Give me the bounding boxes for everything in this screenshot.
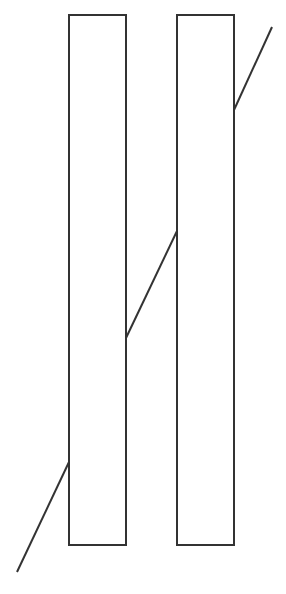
middle-segment bbox=[126, 231, 177, 338]
poggendorff-diagram bbox=[0, 0, 286, 594]
right-bar bbox=[177, 15, 234, 545]
upper-right-segment bbox=[234, 27, 272, 110]
lower-left-segment bbox=[17, 462, 69, 572]
left-bar bbox=[69, 15, 126, 545]
